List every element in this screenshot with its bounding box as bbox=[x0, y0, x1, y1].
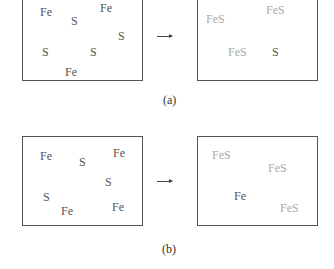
panel-b-before-label: S bbox=[43, 191, 50, 203]
panel-a-caption: (a) bbox=[163, 93, 176, 108]
panel-a-arrow-icon bbox=[157, 36, 172, 37]
panel-a-before-label: S bbox=[118, 30, 125, 42]
panel-a-after-label: S bbox=[272, 46, 279, 58]
panel-b-before-label: Fe bbox=[61, 205, 73, 217]
panel-a-after-label: FeS bbox=[228, 46, 247, 58]
panel-a-after-label: FeS bbox=[206, 13, 225, 25]
panel-b-before-label: Fe bbox=[113, 147, 125, 159]
panel-b-after-label: FeS bbox=[212, 149, 231, 161]
panel-a-before-label: Fe bbox=[100, 2, 112, 14]
panel-a-before-label: S bbox=[71, 15, 78, 27]
panel-b-after-label: Fe bbox=[234, 190, 246, 202]
panel-b-caption: (b) bbox=[162, 242, 176, 257]
panel-b-after-label: FeS bbox=[280, 202, 299, 214]
panel-a-before-label: Fe bbox=[40, 6, 52, 18]
panel-b-before-label: S bbox=[105, 176, 112, 188]
panel-b-before-label: Fe bbox=[40, 150, 52, 162]
panel-a-before-label: Fe bbox=[65, 66, 77, 78]
panel-b-after-label: FeS bbox=[268, 162, 287, 174]
panel-b-before-label: Fe bbox=[112, 201, 124, 213]
panel-a-before-label: S bbox=[90, 46, 97, 58]
panel-b-before-label: S bbox=[79, 156, 86, 168]
panel-a-before-label: S bbox=[42, 46, 49, 58]
panel-b-arrow-icon bbox=[157, 181, 172, 182]
panel-a-after-label: FeS bbox=[266, 4, 285, 16]
